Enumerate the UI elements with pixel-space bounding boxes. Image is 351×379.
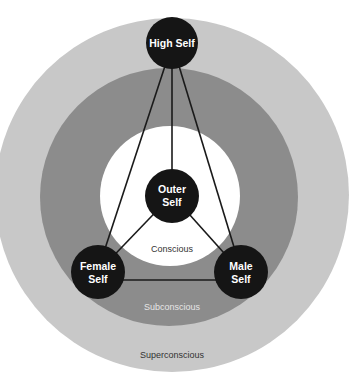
male-self-label-1: Male <box>229 260 253 272</box>
female-self-label-2: Self <box>88 273 108 285</box>
three-selves-diagram: High Self Outer Self Female Self Male Se… <box>0 0 351 379</box>
female-self-label-1: Female <box>80 260 116 272</box>
conscious-label: Conscious <box>151 244 194 254</box>
outer-self-label-2: Self <box>162 196 182 208</box>
node-male-self <box>214 245 268 299</box>
male-self-label-2: Self <box>231 273 251 285</box>
subconscious-label: Subconscious <box>144 302 201 312</box>
node-female-self <box>71 245 125 299</box>
outer-self-label-1: Outer <box>158 183 186 195</box>
superconscious-label: Superconscious <box>140 350 205 360</box>
high-self-label: High Self <box>149 37 195 49</box>
